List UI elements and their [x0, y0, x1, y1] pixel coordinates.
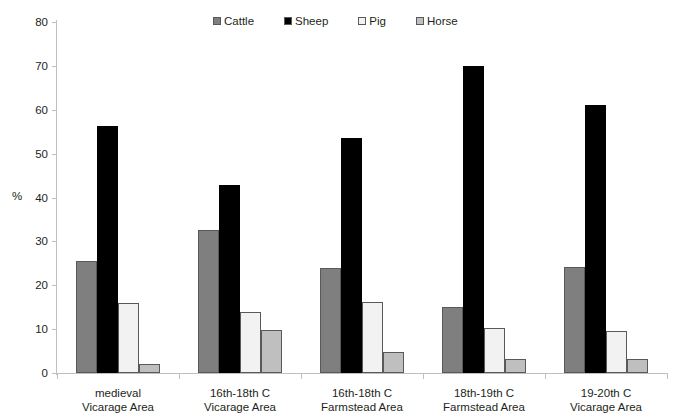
y-axis-title: %	[12, 190, 22, 202]
x-axis-tick	[667, 374, 668, 379]
x-axis-category-label-line: Vicarage Area	[179, 400, 301, 414]
bar-pig-group-4	[484, 328, 505, 373]
bar-pig-group-3	[362, 302, 383, 373]
x-axis-category-label: 18th-19th CFarmstead Area	[423, 386, 545, 414]
bar-sheep-group-5	[585, 105, 606, 374]
bar-sheep-group-2	[219, 185, 240, 373]
x-axis-category-labels: medievalVicarage Area16th-18th CVicarage…	[57, 386, 667, 414]
bar-cattle-group-2	[198, 230, 219, 373]
y-axis-tick-label: 80	[0, 16, 48, 28]
x-axis-category-label: 16th-18th CFarmstead Area	[301, 386, 423, 414]
x-axis-category-label: 16th-18th CVicarage Area	[179, 386, 301, 414]
y-axis-tick-label: 40	[0, 192, 48, 204]
bar-horse-group-2	[261, 330, 282, 373]
x-axis-category-label-line: 16th-18th C	[179, 386, 301, 400]
x-axis-tick	[57, 374, 58, 379]
bar-cattle-group-1	[76, 261, 97, 373]
x-axis-category-label-line: 16th-18th C	[301, 386, 423, 400]
bar-sheep-group-3	[341, 138, 362, 373]
y-axis-tick-label: 60	[0, 104, 48, 116]
bar-horse-group-3	[383, 352, 404, 373]
y-axis-tick-label: 30	[0, 235, 48, 247]
x-axis-tick	[423, 374, 424, 379]
bar-cattle-group-4	[442, 307, 463, 373]
bar-sheep-group-1	[97, 126, 118, 373]
x-axis-category-label-line: Farmstead Area	[301, 400, 423, 414]
x-axis-category-label-line: Farmstead Area	[423, 400, 545, 414]
x-axis-tick	[545, 374, 546, 379]
y-axis-tick-label: 20	[0, 279, 48, 291]
x-axis-line	[56, 373, 668, 374]
x-axis-tick	[179, 374, 180, 379]
bar-pig-group-1	[118, 303, 139, 373]
bar-cattle-group-3	[320, 268, 341, 373]
bar-chart: CattleSheepPigHorse 80706050403020100 % …	[0, 0, 676, 419]
bar-pig-group-5	[606, 331, 627, 373]
x-axis-category-label-line: 19-20th C	[545, 386, 667, 400]
plot-area	[57, 22, 667, 373]
bar-horse-group-5	[627, 359, 648, 373]
bar-pig-group-2	[240, 312, 261, 373]
y-axis-tick-label: 50	[0, 148, 48, 160]
y-axis-tick-label: 10	[0, 323, 48, 335]
x-axis-category-label-line: 18th-19th C	[423, 386, 545, 400]
bar-horse-group-4	[505, 359, 526, 373]
x-axis-tick	[301, 374, 302, 379]
x-axis-category-label: 19-20th CVicarage Area	[545, 386, 667, 414]
bar-sheep-group-4	[463, 66, 484, 373]
bar-horse-group-1	[139, 364, 160, 373]
y-axis-tick-label: 0	[0, 367, 48, 379]
x-axis-category-label: medievalVicarage Area	[57, 386, 179, 414]
x-axis-category-label-line: Vicarage Area	[545, 400, 667, 414]
bar-cattle-group-5	[564, 267, 585, 373]
y-axis-tick-label: 70	[0, 60, 48, 72]
x-axis-category-label-line: Vicarage Area	[57, 400, 179, 414]
x-axis-category-label-line: medieval	[57, 386, 179, 400]
